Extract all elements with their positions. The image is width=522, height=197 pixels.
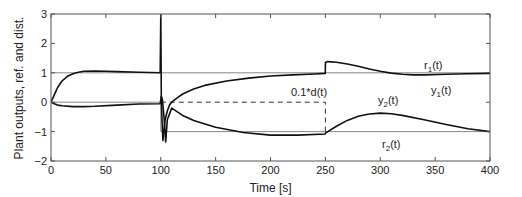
x-tick-label: 200 [261,164,279,176]
x-tick-label: 0 [48,164,54,176]
line-chart: 050100150200250300350400−2−10123 Time [s… [0,0,522,197]
y-tick-label: 3 [41,8,47,20]
series-r2-t- [51,102,490,131]
y-tick-label: 2 [41,37,47,49]
y-tick-label: −2 [34,155,47,167]
plot-frame [51,14,490,161]
x-axis-label: Time [s] [249,181,291,195]
series-y2-t- [51,96,490,142]
y-axis-label: Plant outputs, ref. and dist. [12,17,26,160]
y-tick-label: 1 [41,67,47,79]
annotation-y1: y1(t) [431,84,451,99]
x-tick-label: 50 [100,164,112,176]
annotation-r1: r1(t) [424,59,443,74]
y-tick-label: 0 [41,96,47,108]
x-tick-label: 150 [206,164,224,176]
x-tick-label: 300 [371,164,389,176]
axis-ticks: 050100150200250300350400−2−10123 [34,8,499,176]
annotation-r2: r2(t) [382,138,401,153]
plot-area [51,14,490,142]
annotation-disturbance: 0.1*d(t) [291,86,327,98]
series-y1-t- [51,14,490,140]
x-tick-label: 100 [152,164,170,176]
annotation-y2: y2(t) [378,94,398,109]
x-tick-label: 350 [426,164,444,176]
x-tick-label: 250 [316,164,334,176]
y-tick-label: −1 [34,126,47,138]
x-tick-label: 400 [481,164,499,176]
